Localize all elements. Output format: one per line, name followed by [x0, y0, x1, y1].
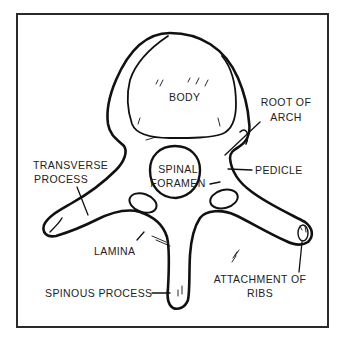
- leader-transverse: [77, 187, 88, 215]
- label-lamina: LAMINA: [94, 245, 136, 258]
- label-transverse-process-line2: PROCESS: [34, 173, 88, 186]
- leader-lamina: [137, 232, 144, 240]
- label-attachment-of-ribs-line2: RIBS: [204, 287, 316, 300]
- label-spinal-foramen-line1: SPINAL: [150, 163, 206, 176]
- label-spinal-foramen-line2: FORAMEN: [150, 177, 206, 190]
- label-root-of-arch-line2: ARCH: [256, 111, 316, 124]
- right-rib-attachment-facet: [298, 225, 308, 241]
- left-rib-facet: [127, 190, 159, 216]
- label-root-of-arch-line1: ROOT OF: [256, 96, 316, 109]
- label-attachment-of-ribs-line1: ATTACHMENT OF: [204, 273, 316, 286]
- left-transverse-tip: [50, 218, 62, 232]
- leader-foramen: [210, 182, 220, 184]
- vertebra-diagram: BODY ROOT OF ARCH TRANSVERSE PROCESS SPI…: [0, 0, 341, 341]
- leader-rib-attach: [299, 242, 302, 272]
- right-rib-facet: [208, 187, 240, 212]
- label-spinous-process: SPINOUS PROCESS: [45, 287, 153, 300]
- label-transverse-process-line1: TRANSVERSE: [33, 159, 108, 172]
- label-pedicle: PEDICLE: [255, 164, 303, 177]
- label-body: BODY: [169, 91, 200, 104]
